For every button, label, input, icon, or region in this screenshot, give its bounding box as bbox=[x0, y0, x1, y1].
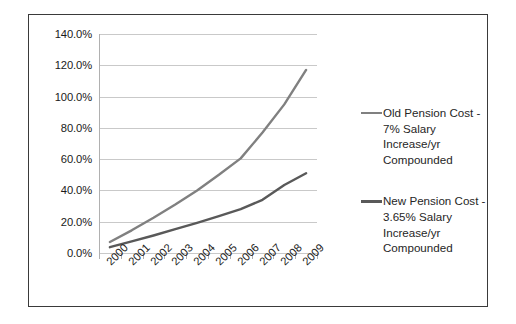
legend-entry: New Pension Cost - 3.65% Salary Increase… bbox=[361, 193, 489, 255]
y-axis-tick-label: 20.0% bbox=[61, 216, 92, 228]
y-axis-tick-label: 60.0% bbox=[61, 153, 92, 165]
y-axis-tick-label: 0.0% bbox=[67, 247, 92, 259]
chart-frame: 0.0%20.0%40.0%60.0%80.0%100.0%120.0%140.… bbox=[28, 14, 488, 307]
series-line bbox=[110, 70, 306, 242]
chart-legend: Old Pension Cost - 7% Salary Increase/yr… bbox=[361, 105, 489, 282]
series-lines bbox=[99, 34, 317, 253]
x-axis-labels: 2000200120022003200420052006200720082009 bbox=[99, 259, 339, 309]
y-axis-tick-label: 140.0% bbox=[55, 28, 92, 40]
series-line bbox=[110, 173, 306, 247]
y-axis-tick-label: 80.0% bbox=[61, 122, 92, 134]
legend-label: New Pension Cost - 3.65% Salary Increase… bbox=[383, 193, 489, 255]
y-axis-tick-label: 40.0% bbox=[61, 184, 92, 196]
legend-label: Old Pension Cost - 7% Salary Increase/yr… bbox=[383, 105, 489, 167]
legend-line-swatch bbox=[361, 200, 382, 202]
y-axis-tick-label: 120.0% bbox=[55, 59, 92, 71]
legend-line-swatch bbox=[361, 112, 382, 114]
y-axis-tick-label: 100.0% bbox=[55, 91, 92, 103]
plot-area: 0.0%20.0%40.0%60.0%80.0%100.0%120.0%140.… bbox=[99, 34, 317, 253]
legend-entry: Old Pension Cost - 7% Salary Increase/yr… bbox=[361, 105, 489, 167]
